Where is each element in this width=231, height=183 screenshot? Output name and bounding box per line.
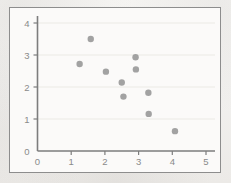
tick-labels: 01234501234 (24, 18, 208, 168)
y-tick-label-3: 3 (24, 50, 29, 61)
axis-ticks (34, 23, 207, 155)
axes (38, 16, 216, 151)
y-tick-label-4: 4 (24, 18, 29, 29)
data-point (132, 54, 138, 60)
x-tick-label-5: 5 (203, 156, 208, 167)
data-point (145, 90, 151, 96)
scatter-plot-page: 01234501234 (0, 0, 231, 183)
x-tick-label-4: 4 (170, 156, 175, 167)
data-point (146, 111, 152, 117)
data-point (133, 66, 139, 72)
y-tick-label-0: 0 (24, 146, 29, 157)
data-point (103, 68, 109, 74)
data-point (172, 128, 178, 134)
data-point (76, 61, 82, 67)
scatter-chart: 01234501234 (10, 8, 219, 171)
x-tick-label-2: 2 (102, 156, 107, 167)
data-point (119, 79, 125, 85)
y-tick-label-1: 1 (24, 114, 29, 125)
x-tick-label-0: 0 (35, 156, 40, 167)
y-tick-label-2: 2 (24, 82, 29, 93)
x-tick-label-3: 3 (136, 156, 141, 167)
gridlines-horizontal (38, 23, 216, 119)
x-tick-label-1: 1 (69, 156, 74, 167)
data-point (88, 36, 94, 42)
plot-frame-border: 01234501234 (9, 7, 221, 173)
data-point (120, 93, 126, 99)
